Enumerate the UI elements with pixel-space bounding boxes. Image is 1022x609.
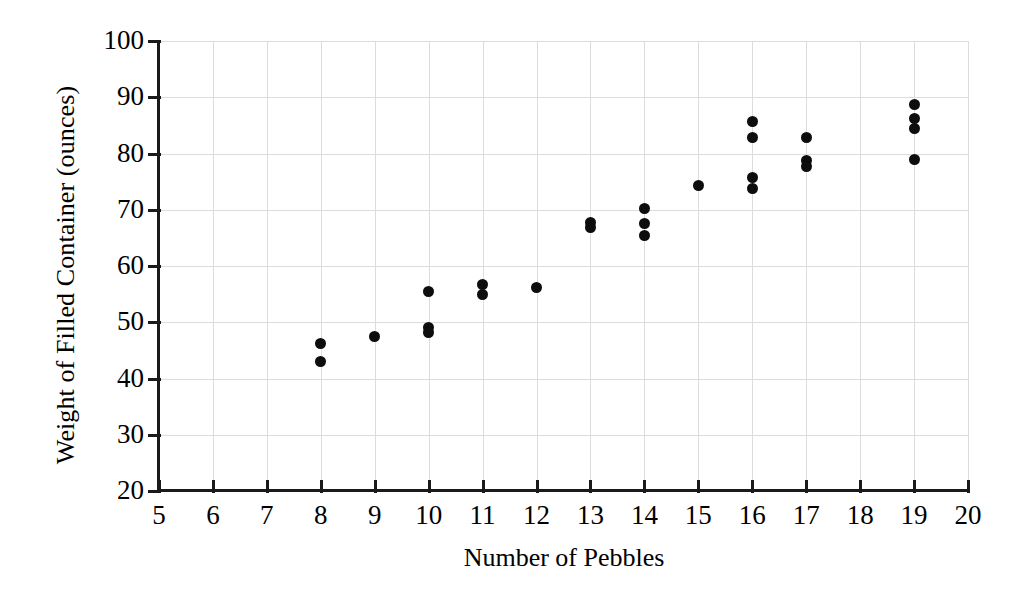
x-axis-tick <box>482 480 485 493</box>
plot-area <box>159 41 968 491</box>
x-axis-tick-label: 12 <box>511 500 563 530</box>
data-point <box>639 203 650 214</box>
x-axis-tick <box>751 480 754 493</box>
data-point <box>693 180 704 191</box>
x-axis-tick-label: 6 <box>187 500 239 530</box>
grid-line-horizontal <box>159 379 968 380</box>
x-axis-tick-label: 19 <box>888 500 940 530</box>
x-axis-tick-label: 14 <box>618 500 670 530</box>
y-axis-tick-label: 100 <box>82 25 144 55</box>
x-axis-tick <box>158 480 161 493</box>
data-point <box>531 282 542 293</box>
data-point <box>477 289 488 300</box>
y-axis-tick <box>148 378 161 381</box>
y-axis-tick-label: 70 <box>82 194 144 224</box>
y-axis-tick-label: 80 <box>82 138 144 168</box>
grid-line-horizontal <box>159 435 968 436</box>
x-axis-tick-label: 10 <box>403 500 455 530</box>
data-point <box>477 279 488 290</box>
y-axis-tick <box>148 209 161 212</box>
y-axis-tick <box>148 434 161 437</box>
data-point <box>801 132 812 143</box>
x-axis-tick-label: 17 <box>780 500 832 530</box>
data-point <box>315 356 326 367</box>
grid-line-vertical <box>968 41 969 491</box>
y-axis-tick <box>148 96 161 99</box>
x-axis-tick-label: 8 <box>295 500 347 530</box>
data-point <box>909 154 920 165</box>
x-axis-tick-label: 13 <box>564 500 616 530</box>
y-axis-tick-label: 60 <box>82 250 144 280</box>
x-axis-tick-label: 18 <box>834 500 886 530</box>
data-point <box>747 172 758 183</box>
x-axis-tick <box>374 480 377 493</box>
x-axis-tick-label: 20 <box>942 500 994 530</box>
x-axis-tick-label: 15 <box>672 500 724 530</box>
data-point <box>801 161 812 172</box>
y-axis-tick <box>148 153 161 156</box>
grid-line-horizontal <box>159 322 968 323</box>
y-axis-tick-label: 40 <box>82 363 144 393</box>
grid-line-horizontal <box>159 154 968 155</box>
x-axis-title: Number of Pebbles <box>159 543 969 573</box>
x-axis-tick <box>320 480 323 493</box>
x-axis-tick <box>643 480 646 493</box>
y-axis-tick-label: 30 <box>82 419 144 449</box>
x-axis-tick <box>697 480 700 493</box>
data-point <box>909 99 920 110</box>
grid-line-horizontal <box>159 41 968 42</box>
data-point <box>909 113 920 124</box>
x-axis-line <box>157 489 969 492</box>
data-point <box>747 116 758 127</box>
x-axis-tick <box>805 480 808 493</box>
data-point <box>747 183 758 194</box>
x-axis-tick-label: 11 <box>457 500 509 530</box>
x-axis-tick <box>536 480 539 493</box>
x-axis-tick-label: 9 <box>349 500 401 530</box>
x-axis-tick <box>589 480 592 493</box>
x-axis-tick <box>266 480 269 493</box>
x-axis-tick <box>212 480 215 493</box>
data-point <box>639 230 650 241</box>
y-axis-tick <box>148 40 161 43</box>
grid-line-horizontal <box>159 266 968 267</box>
y-axis-tick <box>148 321 161 324</box>
data-point <box>369 331 380 342</box>
data-point <box>909 123 920 134</box>
data-point <box>747 132 758 143</box>
y-axis-tick-label: 50 <box>82 306 144 336</box>
x-axis-tick <box>913 480 916 493</box>
grid-line-horizontal <box>159 210 968 211</box>
y-axis-tick <box>148 265 161 268</box>
x-axis-tick <box>428 480 431 493</box>
data-point <box>423 327 434 338</box>
x-axis-tick-label: 7 <box>241 500 293 530</box>
x-axis-tick-label: 5 <box>133 500 185 530</box>
x-axis-tick <box>967 480 970 493</box>
scatter-plot-figure: Weight of Filled Container (ounces) 2030… <box>0 0 1022 609</box>
x-axis-tick-label: 16 <box>726 500 778 530</box>
grid-line-horizontal <box>159 97 968 98</box>
y-axis-tick-label: 90 <box>82 81 144 111</box>
x-axis-tick <box>859 480 862 493</box>
